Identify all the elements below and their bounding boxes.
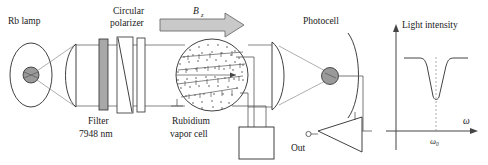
filter-label-line2: 7948 nm <box>79 129 113 139</box>
plot-x-axis-label: ω <box>463 116 470 126</box>
x-axis-arrowhead <box>470 128 478 134</box>
optical-pumping-figure: Rb lamp Circular polarizer B z Photocell… <box>0 0 488 165</box>
plot-y-axis-label: Light intensity <box>402 20 458 30</box>
vapor-stipple <box>177 44 243 108</box>
photocell <box>322 33 359 118</box>
light-rays-input <box>37 44 76 107</box>
filter-label-line1: Filter <box>88 116 109 126</box>
resonance-tick-label: ω₀ <box>430 136 439 146</box>
vapor-cell-label-line2: vapor cell <box>170 129 208 139</box>
out-label: Out <box>291 143 306 153</box>
rb-lamp-label: Rb lamp <box>8 16 41 26</box>
output-terminal <box>306 131 311 136</box>
y-axis-arrowhead <box>393 24 399 32</box>
amplifier <box>306 117 372 152</box>
beam-rails-right <box>248 45 272 107</box>
rubidium-vapor-cell <box>176 39 248 111</box>
circular-polarizer-element <box>117 37 145 113</box>
collimating-lens <box>66 44 77 107</box>
filter-element <box>99 39 108 110</box>
photocell-label: Photocell <box>303 16 339 26</box>
photocell-disc <box>322 68 339 85</box>
intensity-plot: Light intensity ω ω₀ <box>386 20 478 150</box>
circular-polarizer-label-line2: polarizer <box>110 18 145 28</box>
circular-polarizer-label-line1: Circular <box>113 6 145 16</box>
rb-lamp <box>10 43 52 107</box>
b-field-label: B <box>193 6 199 16</box>
b-field-subscript: z <box>200 11 204 18</box>
rf-wiring <box>232 57 266 127</box>
photocell-wiring <box>338 76 363 131</box>
rf-oscillator-box <box>239 127 274 159</box>
cell-ground-terminal <box>171 99 183 106</box>
focusing-lens <box>272 42 284 110</box>
vapor-cell-label-line1: Rubidium <box>172 116 211 126</box>
